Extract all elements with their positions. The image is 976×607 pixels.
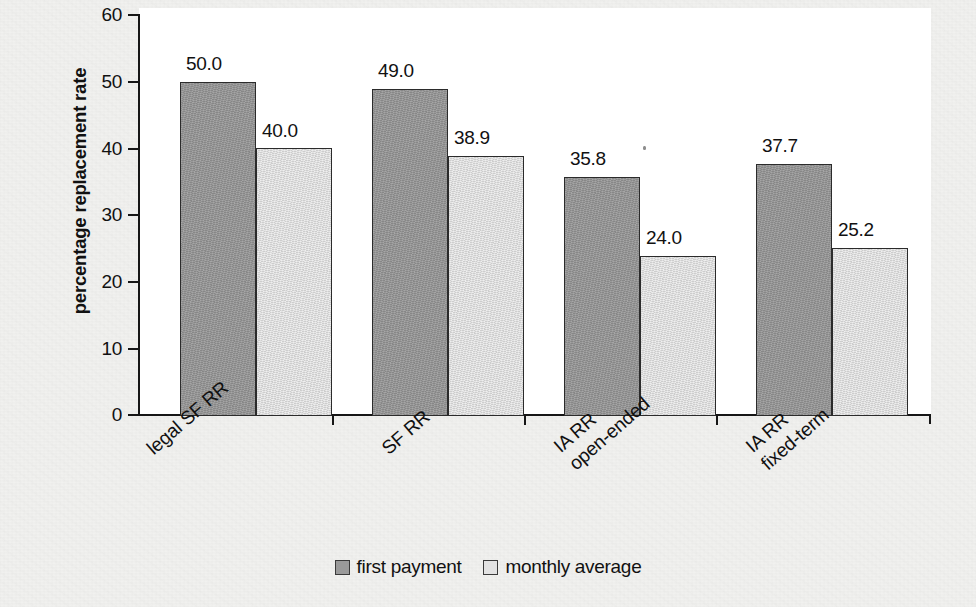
y-tick-label-10: 10: [62, 338, 122, 360]
legend-item-monthly-average: monthly average: [483, 556, 641, 578]
bar-value-legal-sf-rr-first-payment: 50.0: [186, 53, 222, 75]
legend-label-first-payment: first payment: [357, 556, 462, 578]
x-tick-separator-2: [524, 416, 526, 425]
bar-value-ia-rr-fixed-term-monthly-average: 25.2: [838, 219, 874, 241]
bar-legal-sf-rr-monthly-average: [256, 148, 332, 416]
y-tick-label-30: 30: [62, 204, 122, 226]
y-tick-label-40: 40: [62, 138, 122, 160]
y-tick-mark-50: [128, 81, 138, 83]
bar-value-sf-rr-first-payment: 49.0: [378, 60, 414, 82]
y-axis-line: [138, 14, 140, 416]
bar-sf-rr-first-payment: [372, 89, 448, 416]
y-tick-label-60: 60: [62, 4, 122, 26]
bar-ia-rr-open-ended-monthly-average: [640, 256, 716, 416]
y-tick-label-20: 20: [62, 271, 122, 293]
bar-ia-rr-fixed-term-first-payment: [756, 164, 832, 416]
legend-label-monthly-average: monthly average: [505, 556, 641, 578]
bar-value-ia-rr-open-ended-first-payment: 35.8: [570, 148, 606, 170]
y-tick-mark-20: [128, 281, 138, 283]
x-tick-separator-1: [332, 416, 334, 425]
y-tick-mark-30: [128, 214, 138, 216]
scan-artifact-speck: [643, 146, 646, 150]
x-tick-separator-3: [716, 416, 718, 425]
bar-value-ia-rr-fixed-term-first-payment: 37.7: [762, 135, 798, 157]
bar-legal-sf-rr-first-payment: [180, 82, 256, 416]
y-tick-label-50: 50: [62, 71, 122, 93]
bar-value-sf-rr-monthly-average: 38.9: [454, 127, 490, 149]
legend-swatch-icon-first-payment: [335, 560, 350, 575]
bar-ia-rr-fixed-term-monthly-average: [832, 248, 908, 416]
y-tick-mark-0: [128, 414, 138, 416]
legend-item-first-payment: first payment: [335, 556, 462, 578]
legend-swatch-icon-monthly-average: [483, 560, 498, 575]
y-tick-mark-10: [128, 348, 138, 350]
x-axis-end-cap: [929, 414, 931, 424]
bar-sf-rr-monthly-average: [448, 156, 524, 416]
bar-value-legal-sf-rr-monthly-average: 40.0: [262, 120, 298, 142]
bar-value-ia-rr-open-ended-monthly-average: 24.0: [646, 227, 682, 249]
chart-figure: percentage replacement rate 60 50 40 30 …: [0, 0, 976, 607]
y-tick-label-0: 0: [62, 404, 122, 426]
chart-legend: first payment monthly average: [0, 556, 976, 578]
y-tick-mark-60: [128, 14, 138, 16]
y-tick-mark-40: [128, 148, 138, 150]
